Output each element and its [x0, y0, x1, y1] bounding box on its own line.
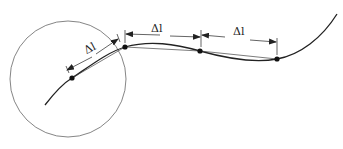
delta-l-label-3: Δl [233, 25, 245, 38]
delta-l-label-2: Δl [151, 22, 163, 35]
point-3 [197, 48, 202, 53]
dimension-lines [67, 34, 276, 70]
point-1 [69, 75, 74, 80]
point-4 [274, 56, 279, 61]
curve-diagram: Δl Δl Δl [0, 0, 343, 149]
point-2 [122, 44, 127, 49]
delta-l-label-1: Δl [82, 40, 99, 57]
osculating-circle [10, 21, 126, 137]
chord-segments [72, 47, 277, 78]
curve [45, 14, 337, 105]
diagram-canvas: Δl Δl Δl [0, 0, 343, 149]
